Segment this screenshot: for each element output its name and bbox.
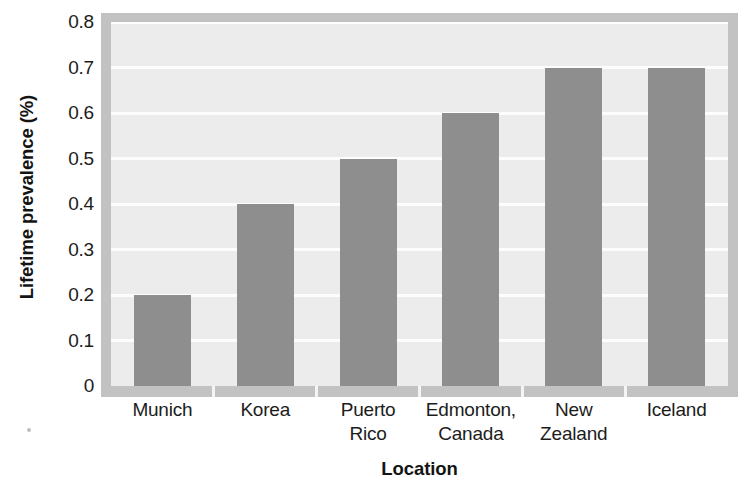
- bar: [340, 159, 397, 387]
- bar: [237, 204, 294, 386]
- bar: [134, 295, 191, 386]
- y-axis-tick-label: 0.4: [30, 194, 94, 213]
- x-axis-tick-mark: [212, 386, 215, 397]
- x-axis-tick-label-line: Zealand: [522, 422, 625, 446]
- x-axis-tick-label-line: Iceland: [625, 398, 728, 422]
- x-axis-tick-label: Korea: [214, 398, 317, 422]
- plot-area: [111, 22, 728, 386]
- gridline: [111, 203, 728, 206]
- x-axis-tick-label-line: Canada: [420, 422, 523, 446]
- x-axis-tick-mark: [315, 386, 318, 397]
- gridline: [111, 112, 728, 115]
- y-axis-tick-label: 0.8: [30, 12, 94, 31]
- bar: [648, 68, 705, 387]
- y-axis-tick-labels: 0.80.70.60.50.40.30.20.10: [30, 0, 102, 400]
- x-axis-title: Location: [111, 458, 728, 480]
- x-axis-tick-label-line: Puerto: [317, 398, 420, 422]
- y-axis-tick-label: 0: [30, 376, 94, 395]
- bar: [545, 68, 602, 387]
- x-axis-tick-label-line: New: [522, 398, 625, 422]
- gridline: [111, 66, 728, 69]
- x-axis-tick-label: Munich: [111, 398, 214, 422]
- x-axis-tick-label: Edmonton,Canada: [420, 398, 523, 446]
- x-axis-tick-mark: [418, 386, 421, 397]
- x-axis-tick-label: Iceland: [625, 398, 728, 422]
- y-axis-tick-label: 0.2: [30, 285, 94, 304]
- gridline: [111, 22, 728, 24]
- y-axis-tick-label: 0.6: [30, 103, 94, 122]
- x-axis-tick-label: PuertoRico: [317, 398, 420, 446]
- y-axis-tick-label: 0.7: [30, 58, 94, 77]
- bar-chart-figure: Lifetime prevalence (%) 0.80.70.60.50.40…: [0, 0, 753, 490]
- scan-artifact: [27, 428, 31, 432]
- gridline: [111, 339, 728, 342]
- x-axis-tick-label-line: Munich: [111, 398, 214, 422]
- x-axis-tick-label: NewZealand: [522, 398, 625, 446]
- x-axis-tick-labels: MunichKoreaPuertoRicoEdmonton,CanadaNewZ…: [111, 398, 728, 456]
- x-axis-tick-label-line: Rico: [317, 422, 420, 446]
- x-axis-tick-mark: [624, 386, 627, 397]
- gridline: [111, 248, 728, 251]
- x-axis-band: [101, 386, 738, 397]
- y-axis-tick-label: 0.1: [30, 331, 94, 350]
- gridline: [111, 294, 728, 297]
- bar: [442, 113, 499, 386]
- x-axis-tick-label-line: Edmonton,: [420, 398, 523, 422]
- gridline: [111, 157, 728, 160]
- x-axis-tick-label-line: Korea: [214, 398, 317, 422]
- y-axis-tick-label: 0.3: [30, 240, 94, 259]
- y-axis-tick-label: 0.5: [30, 149, 94, 168]
- x-axis-tick-mark: [521, 386, 524, 397]
